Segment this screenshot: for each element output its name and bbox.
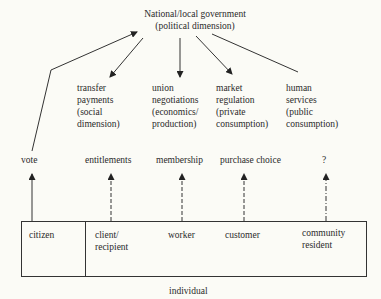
- role-worker: worker: [168, 229, 195, 241]
- gov-to-market-arrow: [196, 36, 232, 74]
- role-client-recipient: client/ recipient: [95, 229, 128, 253]
- dimension-human-services: human services (public consumption): [286, 82, 338, 130]
- mechanism-membership: membership: [156, 154, 203, 166]
- mechanism-vote: vote: [21, 154, 37, 166]
- gov-to-transfer-arrow: [110, 38, 143, 77]
- box-divider: [85, 221, 86, 276]
- mechanism-entitlements: entitlements: [85, 154, 131, 166]
- mechanism-purchase-choice: purchase choice: [220, 154, 281, 166]
- government-subtitle: (political dimension): [120, 20, 270, 32]
- role-community-resident: community resident: [302, 227, 345, 251]
- mechanism-unknown: ?: [322, 154, 326, 166]
- government-node: National/local government (political dim…: [120, 8, 270, 32]
- role-citizen: citizen: [29, 229, 54, 241]
- dimension-market-regulation: market regulation (private consumption): [216, 82, 268, 130]
- individual-caption: individual: [169, 285, 208, 297]
- dimension-union-negotiations: union negotiations (economics/ productio…: [152, 82, 198, 130]
- government-title: National/local government: [120, 8, 270, 20]
- role-customer: customer: [225, 229, 260, 241]
- dimension-transfer-payments: transfer payments (social dimension): [77, 82, 120, 130]
